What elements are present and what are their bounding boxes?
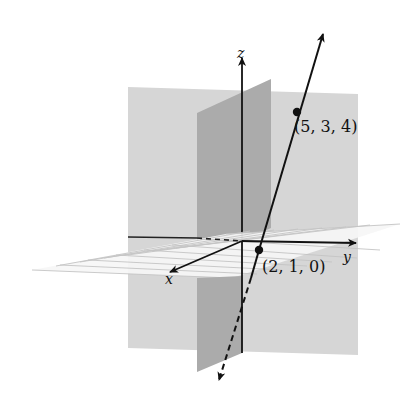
point-2-1-0 [255,246,263,254]
point-label-5-3-4: (5, 3, 4) [294,117,357,136]
y-axis-label: y [342,249,352,265]
x-axis-negative-solid [128,237,197,238]
point-label-2-1-0: (2, 1, 0) [262,257,325,276]
z-axis-label: z [236,45,245,61]
diagram-svg: z y x (5, 3, 4) (2, 1, 0) [0,0,420,412]
xz-plane-lower [197,276,242,372]
3d-line-diagram: z y x (5, 3, 4) (2, 1, 0) [0,0,420,412]
point-5-3-4 [293,108,301,116]
x-axis-label: x [165,271,173,287]
